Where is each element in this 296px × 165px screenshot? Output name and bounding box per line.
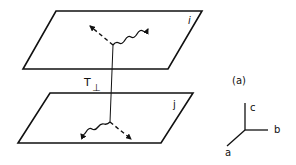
wavy-arrow-icon xyxy=(81,122,110,135)
coupling-T: T xyxy=(83,76,91,89)
top-vertex xyxy=(90,26,148,45)
diagram-canvas: i j T ⊥ (a) c b a xyxy=(0,0,296,165)
interlayer-coupling-line xyxy=(110,45,113,122)
plane-j-label: j xyxy=(172,99,176,110)
wavy-arrow-icon xyxy=(113,29,148,45)
coupling-label: T ⊥ xyxy=(83,76,101,93)
dashed-arrow-icon xyxy=(90,26,113,45)
axis-c-label: c xyxy=(250,102,256,113)
panel-label: (a) xyxy=(232,75,246,86)
axis-a-label: a xyxy=(225,147,231,158)
dashed-arrow-icon xyxy=(110,122,131,139)
coupling-subscript-perp: ⊥ xyxy=(92,82,101,93)
axis-b-label: b xyxy=(274,124,280,135)
plane-i-label: i xyxy=(188,15,191,26)
axes-triad: c b a xyxy=(225,102,280,158)
plane-j: j xyxy=(18,93,193,143)
bottom-vertex xyxy=(81,122,131,139)
axis-a xyxy=(227,130,245,146)
